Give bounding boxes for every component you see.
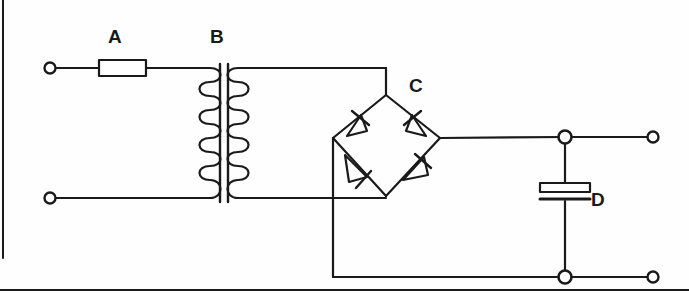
transformer-secondary-winding	[228, 68, 249, 198]
output-junction-top[interactable]	[559, 131, 572, 144]
component-label-a: A	[108, 27, 122, 46]
fuse-body	[99, 60, 146, 76]
output-junction-bottom[interactable]	[559, 271, 572, 284]
component-label-d: D	[591, 190, 605, 209]
input-terminal-top[interactable]	[45, 63, 56, 74]
diode-bottom-left	[345, 155, 371, 188]
diode-bottom-right	[403, 154, 431, 180]
circuit-diagram: A B C D	[0, 0, 689, 295]
component-label-c: C	[409, 76, 423, 95]
capacitor-plate-top	[540, 183, 590, 192]
component-label-b: B	[210, 27, 224, 46]
output-terminal-bottom[interactable]	[648, 272, 659, 283]
bridge-arm-bottom-left	[333, 138, 386, 196]
bridge-arm-bottom-right	[386, 138, 440, 196]
output-terminal-top[interactable]	[648, 132, 659, 143]
circuit-schematic-svg	[0, 0, 689, 295]
transformer-primary-winding	[200, 68, 221, 198]
input-terminal-bottom[interactable]	[45, 193, 56, 204]
wire-dc-positive-rail	[440, 137, 565, 138]
